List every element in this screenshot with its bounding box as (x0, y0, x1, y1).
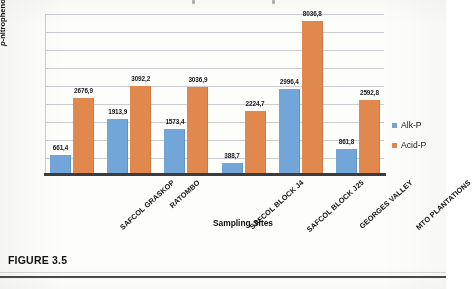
bar-wrap-acid: 3092,2 (130, 14, 151, 174)
bar-group: 861,8 2592,8 (336, 14, 380, 174)
x-axis-line (44, 173, 386, 176)
y-axis-title: p-nitrophenol µg/g/h (0, 0, 7, 46)
bar-acid-p[interactable]: 3092,2 (130, 86, 151, 174)
bar-group: 388,7 2224,7 (222, 14, 266, 174)
bar-acid-p[interactable]: 2676,9 (73, 98, 94, 174)
bar-value-label: 661,4 (53, 144, 69, 151)
bar-wrap-alk: 2996,4 (279, 14, 300, 174)
plot-area: 661,4 2676,9 1913,9 (46, 14, 384, 174)
bar-acid-p[interactable]: 2592,8 (359, 100, 380, 174)
caption-rule (0, 276, 446, 278)
bar-alk-p[interactable]: 1573,4 (164, 129, 185, 174)
figure-caption: FIGURE 3.5 (8, 254, 67, 266)
bar-acid-p[interactable]: 2224,7 (245, 111, 266, 174)
bar-wrap-acid: 2224,7 (245, 14, 266, 174)
caption-rule-soft (0, 272, 446, 273)
bar-value-label: 2676,9 (74, 87, 93, 94)
bar-groups: 661,4 2676,9 1913,9 (46, 14, 384, 174)
bar-value-label: 1573,4 (165, 118, 184, 125)
legend-swatch-acid-p (392, 143, 397, 148)
bar-alk-p[interactable]: 1913,9 (107, 119, 128, 174)
bar-group: 1913,9 3092,2 (107, 14, 151, 174)
bar-group: 2996,4 8036,8 (279, 14, 323, 174)
bar-value-label: 861,8 (339, 138, 355, 145)
bar-wrap-alk: 661,4 (50, 14, 71, 174)
legend-swatch-alk-p (392, 123, 397, 128)
bar-wrap-acid: 8036,8 (302, 14, 323, 174)
bar-value-label: 2224,7 (246, 100, 265, 107)
bar-alk-p[interactable]: 661,4 (50, 155, 71, 174)
bar-value-label: 2592,8 (360, 89, 379, 96)
bar-value-label: 3036,9 (188, 76, 207, 83)
legend-item-acid-p[interactable]: Acid-P (392, 140, 426, 150)
bar-group: 1573,4 3036,9 (164, 14, 208, 174)
bar-acid-p[interactable]: 8036,8 (302, 21, 323, 174)
bar-wrap-acid: 2676,9 (73, 14, 94, 174)
legend-item-alk-p[interactable]: Alk-P (392, 120, 426, 130)
legend-label-alk-p: Alk-P (401, 120, 422, 130)
bar-value-label: 388,7 (224, 152, 240, 159)
y-axis-title-italic-p: p (0, 41, 7, 46)
chart-legend: Alk-P Acid-P (392, 120, 426, 150)
y-axis-title-rest: -nitrophenol µg/g/h (0, 0, 7, 41)
bar-group: 661,4 2676,9 (50, 14, 94, 174)
x-axis-title: Sampling Sites (0, 218, 446, 228)
bar-wrap-alk: 1913,9 (107, 14, 128, 174)
bar-wrap-alk: 1573,4 (164, 14, 185, 174)
bar-wrap-alk: 861,8 (336, 14, 357, 174)
bar-wrap-acid: 2592,8 (359, 14, 380, 174)
legend-label-acid-p: Acid-P (401, 140, 426, 150)
bar-value-label: 1913,9 (108, 108, 127, 115)
bar-value-label: 8036,8 (303, 10, 322, 17)
bar-value-label: 2996,4 (280, 78, 299, 85)
bar-wrap-acid: 3036,9 (187, 14, 208, 174)
bar-alk-p[interactable]: 2996,4 (279, 89, 300, 174)
bar-wrap-alk: 388,7 (222, 14, 243, 174)
bar-value-label: 3092,2 (131, 75, 150, 82)
bar-chart-figure: p-nitrophenol µg/g/h 661,4 (0, 6, 446, 234)
bar-alk-p[interactable]: 861,8 (336, 149, 357, 174)
bar-acid-p[interactable]: 3036,9 (187, 87, 208, 174)
